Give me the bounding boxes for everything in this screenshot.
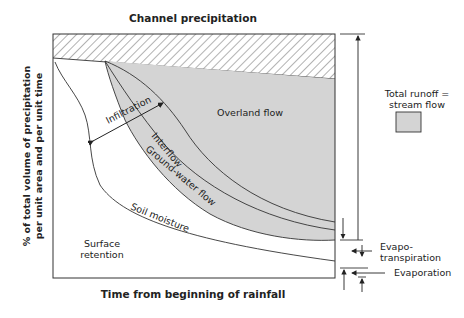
legend-label-2: stream flow [389,99,445,110]
y-axis-label-1: % of total volume of precipitation [21,65,32,246]
y-axis-label-2: per unit area and per unit time [33,73,44,239]
legend-swatch-runoff [396,112,421,132]
evaporation-label: Evaporation [394,267,451,278]
overland-flow-label: Overland flow [217,107,283,118]
evapotranspiration-label-1: Evapo- [380,241,413,252]
evapotranspiration-label-2: transpiration [380,252,441,263]
diagram-title: Channel precipitation [129,12,257,24]
x-axis-label: Time from beginning of rainfall [101,288,286,300]
soil-moisture-label: Soil moisture [129,201,191,235]
runoff-diagram: Channel precipitation Overland flow Infi… [0,0,464,318]
legend-label-1: Total runoff = [384,88,450,99]
surface-retention-label-1: Surface [84,238,120,249]
surface-retention-label-2: retention [80,249,123,260]
